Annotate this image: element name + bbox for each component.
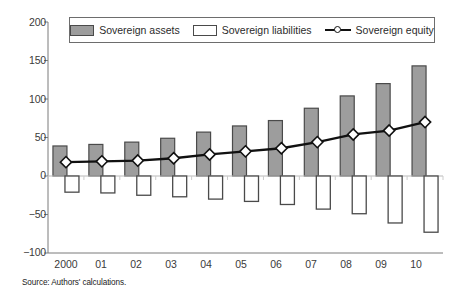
source-note: Source: Authors' calculations. — [22, 278, 126, 287]
y-tick-200: 200 — [2, 16, 46, 28]
bar-liabilities-03 — [173, 176, 187, 197]
plot-area — [0, 0, 451, 296]
bar-liabilities-06 — [280, 176, 294, 204]
bar-liabilities-08 — [352, 176, 366, 214]
bar-liabilities-2000 — [65, 176, 79, 192]
bar-liabilities-04 — [209, 176, 223, 199]
y-tick-150: 150 — [2, 54, 46, 66]
bar-liabilities-05 — [245, 176, 259, 201]
bar-liabilities-01 — [101, 176, 115, 193]
bar-liabilities-09 — [388, 176, 402, 223]
y-tick-neg50: −50 — [2, 208, 46, 220]
bar-liabilities-02 — [137, 176, 151, 195]
bar-liabilities-10 — [424, 176, 438, 232]
y-tick-0: 0 — [2, 169, 46, 181]
y-tick-neg100: −100 — [2, 246, 46, 258]
x-tick-10: 10 — [394, 258, 438, 270]
y-tick-50: 50 — [2, 131, 46, 143]
chart-figure: Sovereign assets Sovereign liabilities S… — [0, 0, 451, 296]
bar-liabilities-07 — [316, 176, 330, 209]
y-tick-100: 100 — [2, 93, 46, 105]
